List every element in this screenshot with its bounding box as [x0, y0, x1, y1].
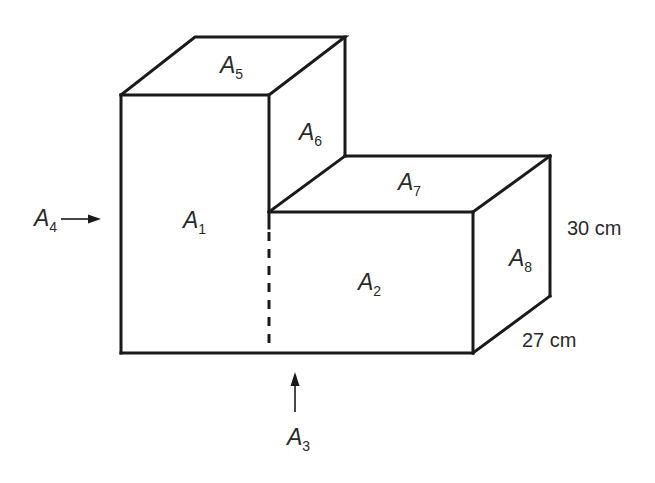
arrow-right-icon [88, 215, 101, 224]
arrow-up-icon [291, 372, 300, 386]
l-shaped-prism-diagram: A5 A6 A7 A1 A4 A2 A8 A3 30 cm 27 cm [0, 0, 655, 483]
arrow-a4 [61, 215, 101, 224]
arrow-a3 [291, 372, 300, 412]
label-a3: A3 [285, 424, 310, 454]
dimension-height-label: 30 cm [567, 217, 621, 239]
dimension-depth-label: 27 cm [522, 329, 576, 351]
label-a4: A4 [32, 205, 57, 235]
faces [121, 37, 550, 353]
